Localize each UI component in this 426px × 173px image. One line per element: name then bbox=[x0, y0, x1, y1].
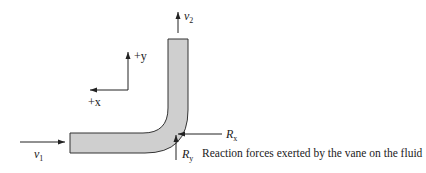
caption: Reaction forces exerted by the vane on t… bbox=[202, 148, 422, 160]
plus-y-label: +y bbox=[134, 50, 147, 62]
plus-x-label: +x bbox=[88, 96, 101, 108]
ry-label: Ry bbox=[182, 148, 193, 163]
v1-label: v1 bbox=[34, 148, 43, 163]
v2-label: v2 bbox=[184, 10, 193, 25]
rx-label: Rx bbox=[226, 128, 237, 143]
vane-diagram: v2 +y +x v1 Rx Ry Reaction forces exerte… bbox=[0, 0, 426, 173]
